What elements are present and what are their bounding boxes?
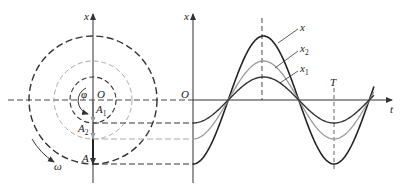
period-label: T bbox=[330, 76, 337, 88]
left-axis-label: x bbox=[83, 10, 89, 22]
left-origin-label: O bbox=[97, 88, 105, 100]
phase-label: φ bbox=[81, 88, 87, 100]
label-A: A bbox=[81, 152, 89, 164]
label-x: x bbox=[299, 21, 305, 33]
leader-x bbox=[278, 29, 298, 43]
t-axis-label: t bbox=[390, 103, 394, 115]
label-A2: A2 bbox=[77, 122, 89, 137]
phasor-waveform-diagram: x x O O φ ω A1 A2 A x x2 x1 T t bbox=[0, 0, 404, 192]
label-A1: A1 bbox=[95, 103, 107, 118]
right-origin-label: O bbox=[181, 88, 189, 100]
omega-label: ω bbox=[54, 160, 62, 172]
right-axis-label: x bbox=[183, 10, 189, 22]
rotation-arrow-icon bbox=[32, 139, 54, 162]
label-x2: x2 bbox=[299, 42, 309, 57]
label-x1: x1 bbox=[299, 62, 309, 77]
